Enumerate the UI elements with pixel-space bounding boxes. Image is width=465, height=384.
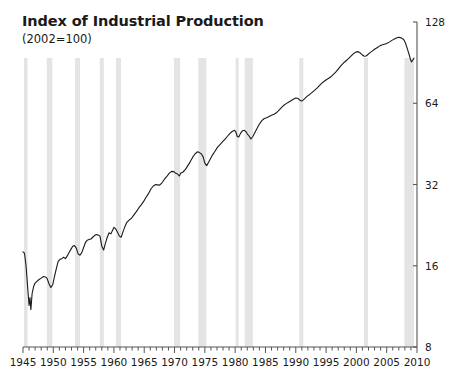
recession-band [174,58,180,347]
y-axis-tick-label: 64 [425,97,439,109]
recession-band [100,58,104,347]
x-axis-tick-label: 1985 [252,356,279,368]
x-axis-tick-label: 1990 [282,356,309,368]
x-axis-tick-label: 1970 [161,356,188,368]
industrial-production-chart: 1286432168 19451950195519601965197019751… [0,0,465,384]
chart-title: Index of Industrial Production [22,13,264,29]
y-axis-tick-label: 128 [425,16,445,28]
recession-band [116,58,121,347]
chart-subtitle: (2002=100) [22,32,92,46]
x-axis-tick-label: 1975 [191,356,218,368]
x-axis-tick-label: 1955 [70,356,97,368]
x-axis-tick-label: 2000 [343,356,370,368]
recession-band [24,58,28,347]
recession-band [47,58,53,347]
x-axis-tick-label: 2005 [373,356,400,368]
recession-band [75,58,80,347]
recession-band [364,58,368,347]
x-axis-tick-label: 2010 [404,356,431,368]
recession-bands-group [24,58,414,347]
x-axis-tick-labels: 1945195019551960196519701975198019851990… [10,356,431,368]
x-axis-tick-label: 1965 [131,356,158,368]
axes-group [23,22,417,353]
recession-band [236,58,239,347]
x-axis-tick-label: 1980 [222,356,249,368]
recession-band [245,58,253,347]
x-axis-tick-label: 1960 [101,356,128,368]
y-axis-tick-label: 8 [425,341,432,353]
production-line [23,37,414,309]
x-axis-tick-label: 1945 [10,356,37,368]
plot-area [23,37,414,309]
x-axis-ticks [23,347,417,353]
x-axis-tick-label: 1950 [40,356,67,368]
y-axis-tick-labels: 1286432168 [425,16,445,353]
x-axis-tick-label: 1995 [313,356,340,368]
y-axis-tick-label: 32 [425,179,438,191]
recession-band [198,58,206,347]
chart-canvas: 1286432168 19451950195519601965197019751… [0,0,465,384]
recession-band [404,58,414,347]
y-axis-tick-label: 16 [425,260,439,272]
